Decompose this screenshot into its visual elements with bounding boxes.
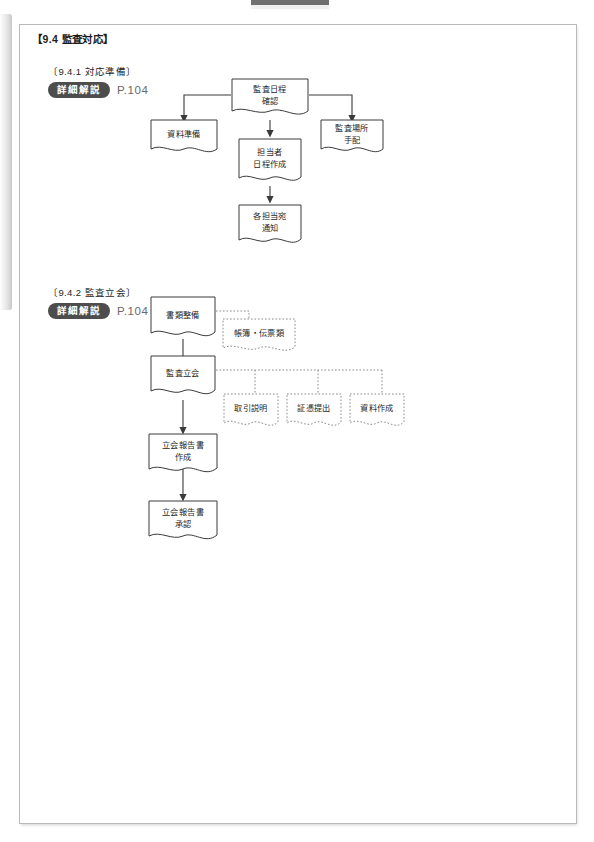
flow1-node-material-preparation: 資料準備 <box>150 119 218 157</box>
node-label-line1: 監査日程 <box>253 84 286 96</box>
node-label-line1: 監査立会 <box>166 368 199 380</box>
flow1-node-audit-schedule-confirm: 監査日程 確認 <box>231 78 309 120</box>
node-label-line2: 作成 <box>162 452 204 464</box>
flow2-node-transaction-explanation: 取引説明 <box>223 393 279 431</box>
flow2-node-ledgers-and-slips: 帳簿・伝票類 <box>222 318 296 356</box>
node-label-line1: 監査場所 <box>335 123 368 135</box>
node-label-line1: 取引説明 <box>234 403 267 415</box>
flow1-node-notify-each-owner: 各担当宛 通知 <box>238 204 302 248</box>
node-label-line1: 立会報告書 <box>162 507 204 519</box>
flow2-node-attendance-report-creation: 立会報告書 作成 <box>148 433 218 478</box>
flow2-node-attendance-report-approval: 立会報告書 承認 <box>148 500 218 545</box>
node-label-line1: 証憑提出 <box>297 403 330 415</box>
node-label-line2: 承認 <box>162 519 204 531</box>
flow2-node-audit-attendance: 監査立会 <box>150 355 216 400</box>
node-label-line1: 立会報告書 <box>162 440 204 452</box>
node-label-line1: 帳簿・伝票類 <box>234 328 284 340</box>
node-label-line2: 日程作成 <box>253 159 286 171</box>
flow1-node-audit-venue-arrangement: 監査場所 手配 <box>320 119 384 157</box>
node-label-line2: 通知 <box>253 223 286 235</box>
node-label-line1: 担当者 <box>253 147 286 159</box>
flow2-node-material-creation: 資料作成 <box>349 393 405 431</box>
flow1-node-staff-schedule-creation: 担当者 日程作成 <box>238 138 302 186</box>
flow2-node-document-preparation: 書類整備 <box>150 296 216 342</box>
node-label-line1: 資料準備 <box>167 129 200 141</box>
node-label-line1: 書類整備 <box>166 310 199 322</box>
node-label-line1: 資料作成 <box>360 403 393 415</box>
node-label-line1: 各担当宛 <box>253 211 286 223</box>
flow2-node-evidence-submission: 証憑提出 <box>286 393 342 431</box>
node-label-line2: 手配 <box>335 135 368 147</box>
node-label-line2: 確認 <box>253 96 286 108</box>
